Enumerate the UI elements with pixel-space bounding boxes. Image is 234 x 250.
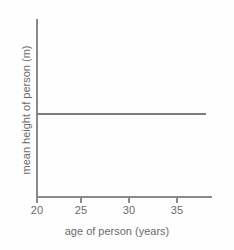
data-series-line (36, 113, 206, 115)
x-tick-mark-3 (176, 197, 178, 203)
y-axis-title: mean height of person (m) (20, 22, 32, 198)
x-tick-label-2: 30 (109, 204, 149, 216)
x-tick-label-3: 35 (157, 204, 197, 216)
x-tick-label-0: 20 (17, 204, 57, 216)
y-axis-line (36, 19, 38, 197)
x-axis-title: age of person (years) (0, 225, 234, 237)
x-tick-mark-0 (36, 197, 38, 203)
x-tick-label-1: 25 (61, 204, 101, 216)
x-axis-line (36, 196, 212, 198)
x-tick-mark-2 (128, 197, 130, 203)
line-chart: 20 25 30 35 age of person (years) mean h… (0, 0, 234, 250)
x-tick-mark-1 (80, 197, 82, 203)
